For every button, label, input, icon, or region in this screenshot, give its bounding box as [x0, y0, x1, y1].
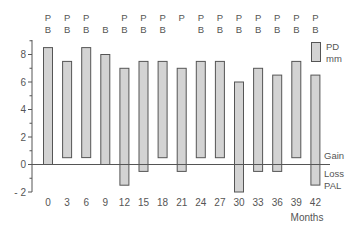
- y-tick-label: 2: [20, 132, 26, 143]
- bar-month-30: [235, 82, 244, 192]
- bar-month-42: [311, 75, 320, 185]
- annotation-b: B: [121, 24, 127, 35]
- annotation-b: B: [45, 24, 51, 35]
- y-tick-label: 6: [20, 77, 26, 88]
- annotation-p: P: [198, 12, 204, 23]
- bar-month-39: [292, 61, 301, 157]
- x-tick-label: 18: [157, 197, 169, 208]
- bar-month-36: [273, 75, 282, 171]
- x-tick-label: 3: [64, 197, 70, 208]
- annotation-b: B: [198, 24, 204, 35]
- annotation-b: B: [293, 24, 299, 35]
- legend: PD mm: [312, 41, 342, 64]
- annotation-p: P: [312, 12, 318, 23]
- bar-month-27: [215, 61, 224, 157]
- legend-label-pd: PD: [326, 41, 339, 52]
- bar-month-15: [139, 61, 148, 171]
- y-tick-label: 0: [20, 159, 26, 170]
- annotation-p: P: [64, 12, 70, 23]
- loss-label: Loss: [324, 168, 344, 179]
- bar-month-3: [63, 61, 72, 157]
- y-axis: - 202468: [14, 40, 32, 198]
- annotation-p: P: [179, 12, 185, 23]
- annotation-p: P: [140, 12, 146, 23]
- bar-month-24: [196, 61, 205, 157]
- annotation-b: B: [140, 24, 146, 35]
- bar-month-0: [44, 48, 53, 165]
- bar-month-6: [82, 48, 91, 158]
- x-tick-label: 30: [233, 197, 245, 208]
- pd-pal-bar-chart: - 202468 03691215182124273033363942 PBPB…: [0, 0, 356, 231]
- annotation-p: P: [83, 12, 89, 23]
- bar-month-12: [120, 68, 129, 185]
- annotation-p: P: [274, 12, 280, 23]
- bar-month-21: [177, 68, 186, 171]
- x-tick-label: 15: [138, 197, 150, 208]
- x-tick-label: 36: [272, 197, 284, 208]
- bars: [44, 48, 320, 192]
- annotation-p: P: [121, 12, 127, 23]
- annotation-b: B: [64, 24, 70, 35]
- annotation-p: P: [293, 12, 299, 23]
- annotation-b: B: [83, 24, 89, 35]
- y-tick-label: 4: [20, 104, 26, 115]
- x-tick-label: 9: [103, 197, 109, 208]
- legend-label-mm: mm: [326, 53, 342, 64]
- x-tick-label: 42: [310, 197, 322, 208]
- annotation-b: B: [159, 24, 165, 35]
- x-tick-label: 27: [214, 197, 226, 208]
- bar-month-9: [101, 55, 110, 165]
- annotation-b: B: [255, 24, 261, 35]
- x-axis-title: Months: [291, 212, 324, 223]
- annotation-p: P: [236, 12, 242, 23]
- annotation-p: P: [217, 12, 223, 23]
- annotation-b: B: [102, 24, 108, 35]
- x-tick-label: 12: [119, 197, 131, 208]
- x-tick-label: 21: [176, 197, 188, 208]
- annotation-b: B: [217, 24, 223, 35]
- y-tick-label: 8: [20, 49, 26, 60]
- annotation-b: B: [236, 24, 242, 35]
- x-axis-labels: 03691215182124273033363942: [45, 197, 321, 208]
- annotation-p: P: [255, 12, 261, 23]
- top-annotations: PBPBPBBPBPBPBPPBPBPBPBPBPBPB: [45, 12, 319, 35]
- annotation-p: P: [45, 12, 51, 23]
- annotation-b: B: [312, 24, 318, 35]
- x-tick-label: 0: [45, 197, 51, 208]
- annotation-p: P: [159, 12, 165, 23]
- pal-label: PAL: [324, 180, 341, 191]
- x-tick-label: 24: [195, 197, 207, 208]
- y-tick-label: - 2: [14, 187, 26, 198]
- x-tick-label: 39: [291, 197, 303, 208]
- legend-swatch: [312, 43, 321, 62]
- bar-month-18: [158, 61, 167, 157]
- annotation-b: B: [274, 24, 280, 35]
- bar-month-33: [254, 68, 263, 171]
- x-tick-label: 33: [253, 197, 265, 208]
- x-tick-label: 6: [83, 197, 89, 208]
- gain-label: Gain: [324, 150, 344, 161]
